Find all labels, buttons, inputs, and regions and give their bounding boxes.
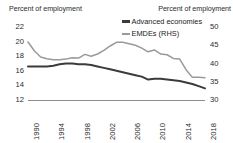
series-line-emdes: [28, 42, 205, 78]
series-line-advanced-economies: [28, 64, 205, 89]
chart-container: Percent of employment Percent of employm…: [0, 0, 233, 143]
plot-area: [0, 0, 233, 143]
